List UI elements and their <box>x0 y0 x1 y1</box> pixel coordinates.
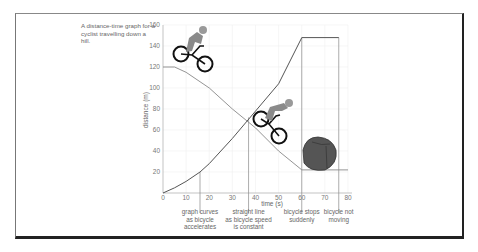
y-axis-label: distance (m) <box>142 92 150 128</box>
svg-text:40: 40 <box>252 194 260 201</box>
annotation-note: bicycle notmoving <box>309 208 369 223</box>
svg-text:140: 140 <box>149 42 160 49</box>
svg-text:60: 60 <box>153 126 161 133</box>
cyclist-middle-icon <box>254 99 294 144</box>
svg-text:30: 30 <box>229 194 237 201</box>
cyclist-top-icon <box>174 26 213 72</box>
svg-text:100: 100 <box>149 84 160 91</box>
svg-text:160: 160 <box>149 21 160 28</box>
svg-text:120: 120 <box>149 63 160 70</box>
tick-labels: 0102030405060708020406080100120140160 <box>149 21 352 201</box>
boulder-icon <box>303 137 336 170</box>
svg-text:0: 0 <box>161 194 165 201</box>
svg-text:80: 80 <box>344 194 352 201</box>
svg-text:70: 70 <box>321 194 329 201</box>
svg-text:20: 20 <box>206 194 214 201</box>
svg-text:10: 10 <box>183 194 191 201</box>
svg-text:40: 40 <box>153 147 161 154</box>
x-axis-label: time (s) <box>261 200 283 208</box>
svg-text:80: 80 <box>153 105 161 112</box>
svg-text:20: 20 <box>153 168 161 175</box>
annotation-note: straight lineas bicycle speedis constant <box>219 208 279 231</box>
